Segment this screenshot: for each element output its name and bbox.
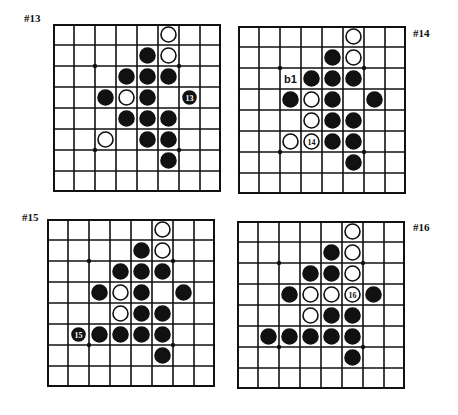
black-disc[interactable] <box>140 90 155 105</box>
black-disc[interactable] <box>324 308 339 323</box>
black-disc[interactable] <box>261 329 276 344</box>
black-disc[interactable] <box>282 287 297 302</box>
black-disc[interactable] <box>98 90 113 105</box>
star-point <box>87 343 91 347</box>
black-disc[interactable] <box>140 69 155 84</box>
star-point <box>93 64 97 68</box>
black-disc[interactable] <box>92 327 107 342</box>
white-disc[interactable]: 14 <box>304 134 319 149</box>
black-disc[interactable] <box>161 69 176 84</box>
star-point <box>361 345 365 349</box>
black-disc[interactable] <box>113 264 128 279</box>
black-disc[interactable]: 15 <box>72 328 85 341</box>
black-disc[interactable] <box>366 287 381 302</box>
white-disc[interactable] <box>161 27 176 42</box>
star-point <box>278 66 282 70</box>
white-disc[interactable] <box>345 266 360 281</box>
black-disc[interactable] <box>346 113 361 128</box>
black-disc[interactable] <box>140 48 155 63</box>
black-disc[interactable] <box>345 308 360 323</box>
move-number: 15 <box>75 331 83 340</box>
star-point <box>278 150 282 154</box>
white-disc[interactable] <box>304 113 319 128</box>
star-point <box>171 259 175 263</box>
black-disc[interactable] <box>119 111 134 126</box>
black-disc[interactable] <box>325 113 340 128</box>
game-board: 16 <box>237 221 405 389</box>
black-disc[interactable] <box>92 285 107 300</box>
black-disc[interactable]: 13 <box>183 91 196 104</box>
white-disc[interactable] <box>161 48 176 63</box>
white-disc[interactable] <box>345 224 360 239</box>
black-disc[interactable] <box>140 111 155 126</box>
black-disc[interactable] <box>155 264 170 279</box>
white-disc[interactable] <box>155 243 170 258</box>
black-disc[interactable] <box>134 306 149 321</box>
white-disc[interactable] <box>119 90 134 105</box>
move-number: 16 <box>349 291 357 300</box>
black-disc[interactable] <box>161 111 176 126</box>
black-disc[interactable] <box>119 69 134 84</box>
black-disc[interactable] <box>134 243 149 258</box>
black-disc[interactable] <box>282 329 297 344</box>
black-disc[interactable] <box>324 245 339 260</box>
white-disc[interactable]: 16 <box>345 287 360 302</box>
game-board: 15 <box>47 219 215 387</box>
black-disc[interactable] <box>155 306 170 321</box>
white-disc[interactable] <box>113 285 128 300</box>
move-number: 14 <box>308 138 316 147</box>
black-disc[interactable] <box>346 134 361 149</box>
black-disc[interactable] <box>325 92 340 107</box>
black-disc[interactable] <box>134 327 149 342</box>
black-disc[interactable] <box>324 266 339 281</box>
black-disc[interactable] <box>345 350 360 365</box>
black-disc[interactable] <box>161 153 176 168</box>
move-number: 13 <box>186 94 194 103</box>
white-disc[interactable] <box>113 306 128 321</box>
diagram-label: #13 <box>24 12 41 24</box>
white-disc[interactable] <box>346 50 361 65</box>
black-disc[interactable] <box>346 155 361 170</box>
white-disc[interactable] <box>345 245 360 260</box>
star-point <box>171 343 175 347</box>
diagram-label: #14 <box>413 27 430 39</box>
black-disc[interactable] <box>134 285 149 300</box>
star-point <box>177 64 181 68</box>
star-point <box>93 148 97 152</box>
white-disc[interactable] <box>324 287 339 302</box>
black-disc[interactable] <box>176 285 191 300</box>
diagram-label: #15 <box>22 211 39 223</box>
star-point <box>177 148 181 152</box>
black-disc[interactable] <box>161 132 176 147</box>
star-point <box>361 261 365 265</box>
star-point <box>362 150 366 154</box>
black-disc[interactable] <box>113 327 128 342</box>
black-disc[interactable] <box>140 132 155 147</box>
white-disc[interactable] <box>283 134 298 149</box>
white-disc[interactable] <box>303 287 318 302</box>
star-point <box>277 345 281 349</box>
white-disc[interactable] <box>304 92 319 107</box>
game-board: 13 <box>53 24 221 192</box>
black-disc[interactable] <box>303 329 318 344</box>
black-disc[interactable] <box>345 329 360 344</box>
white-disc[interactable] <box>155 222 170 237</box>
black-disc[interactable] <box>304 71 319 86</box>
black-disc[interactable] <box>324 329 339 344</box>
black-disc[interactable] <box>134 264 149 279</box>
black-disc[interactable] <box>346 71 361 86</box>
black-disc[interactable] <box>325 71 340 86</box>
star-point <box>362 66 366 70</box>
black-disc[interactable] <box>155 327 170 342</box>
white-disc[interactable] <box>303 308 318 323</box>
star-point <box>277 261 281 265</box>
black-disc[interactable] <box>303 266 318 281</box>
black-disc[interactable] <box>155 348 170 363</box>
black-disc[interactable] <box>367 92 382 107</box>
white-disc[interactable] <box>98 132 113 147</box>
star-point <box>87 259 91 263</box>
white-disc[interactable] <box>346 29 361 44</box>
black-disc[interactable] <box>283 92 298 107</box>
black-disc[interactable] <box>325 50 340 65</box>
black-disc[interactable] <box>325 134 340 149</box>
